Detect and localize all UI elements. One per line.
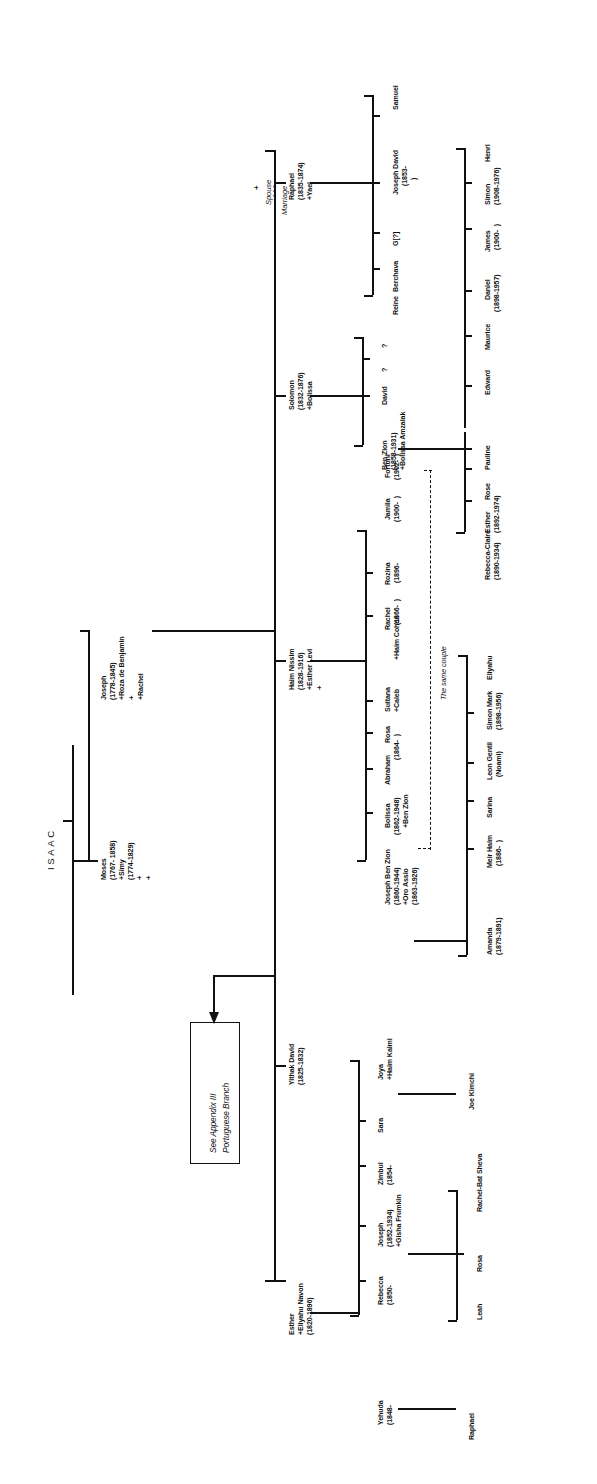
appendix-callout-line2: Portuguese Branch	[222, 1083, 230, 1153]
person-solomon-child-q1: ?	[381, 344, 389, 348]
person-jamila-dates: (1900- )	[393, 496, 401, 522]
person-amanda-dates: (1879-1891)	[495, 917, 503, 955]
stub-leon-gentil	[466, 762, 474, 764]
person-daniel: Daniel	[484, 279, 492, 300]
person-james-dates: (1900- )	[493, 224, 501, 250]
raphael-children-bar-end-bottom	[364, 295, 373, 297]
person-solomon-child-q2: ?	[381, 368, 389, 372]
person-daniel-dates: (1898-1957)	[493, 274, 501, 312]
stub-rachel	[365, 615, 373, 617]
person-abraham: Abraham	[384, 755, 392, 785]
stub-rosa	[365, 732, 373, 734]
esther-children-connector	[310, 1312, 358, 1314]
person-joseph-1852: Joseph	[377, 1223, 385, 1247]
person-bolissa: Bolissa	[384, 803, 392, 828]
person-esther-name: Esther	[288, 1314, 296, 1335]
person-joseph-ben-zion-dates: (1860-1944)	[393, 867, 401, 905]
same-couple-dashed-link	[430, 470, 431, 850]
stub-rosa-child	[456, 1253, 464, 1255]
stub-rozina	[365, 572, 373, 574]
esther-children-bar	[358, 1060, 360, 1315]
person-solomon-dates: (1832-1876)	[297, 372, 305, 410]
person-yithak-david-name: Yithak David	[288, 1044, 296, 1085]
stub-esther-1892	[464, 500, 472, 502]
stub-raphael	[274, 182, 286, 184]
same-couple-dashed-hook-top	[424, 470, 432, 471]
raphael-children-bar	[372, 95, 374, 295]
person-gq: G[?]	[392, 232, 400, 246]
stub-joseph-david	[372, 182, 380, 184]
person-maurice: Maurice	[484, 324, 492, 350]
person-yehuda: Yehuda	[377, 1400, 385, 1425]
stub-rose	[464, 468, 472, 470]
person-samuel: Samuel	[392, 85, 400, 110]
person-leah: Leah	[476, 1304, 484, 1320]
joya-children-connector	[398, 1093, 456, 1095]
solomon-children-bar-end-bottom	[354, 445, 363, 447]
person-rachel-bat-sheva: Rachel-Bat Sheva	[476, 1154, 484, 1212]
person-pauline: Pauline	[484, 445, 492, 470]
person-rebecca-dates: (1850-	[386, 1285, 394, 1305]
root-spine	[72, 745, 74, 995]
stub-daniel	[464, 290, 472, 292]
stub-sara	[358, 1120, 366, 1122]
stub-bolissa	[365, 812, 373, 814]
person-solomon-child-david: David	[381, 386, 389, 405]
person-rosa-child: Rosa	[476, 1255, 484, 1272]
ben-zion-children-bar	[464, 432, 466, 532]
solomon-children-bar	[362, 337, 364, 445]
stub-yithak-david	[274, 1065, 286, 1067]
person-joseph-david-dates-close: )	[410, 178, 418, 180]
person-esther-spouse: +Eliyahu Navon	[297, 1283, 305, 1335]
stub-sarina	[466, 800, 474, 802]
person-raphael-descendant: Raphael	[468, 1413, 476, 1440]
person-moses-extra-union-2: +	[145, 875, 153, 880]
person-meir-haim-dates: (1886- )	[495, 840, 503, 866]
joseph-1852-children-connector	[408, 1253, 456, 1255]
person-fortuni-dates: (1902- )	[393, 454, 401, 480]
raphael-children-bar-end-top	[364, 95, 373, 97]
person-eliyahu: Eliyahu	[486, 655, 494, 680]
person-solomon-name: Solomon	[288, 380, 296, 410]
person-joseph-elder-spouse-2: +Rachel	[137, 673, 145, 700]
same-couple-dashed-hook-bottom	[418, 848, 431, 849]
person-bolissa-spouse: +Ben Zion	[402, 794, 410, 828]
stub-zimbul	[358, 1165, 366, 1167]
ben-zion-children-connector	[398, 448, 464, 450]
person-edward: Edward	[484, 370, 492, 395]
person-yehuda-dates: (1848-	[386, 1405, 394, 1425]
person-raphael-dates: (1835-1874)	[297, 162, 305, 200]
person-haim-nissim-spouse: +Esther Levi	[306, 649, 314, 690]
person-sarina: Sarina	[486, 797, 494, 818]
person-rachel-spouse-dates: (1866- )	[393, 599, 401, 625]
person-rose: Rose	[484, 483, 492, 500]
esther-children-bar-end-top	[350, 1060, 359, 1062]
legend-spouse-symbol: +	[253, 185, 261, 190]
person-simon-mark-dates: (1898-1956)	[495, 692, 503, 730]
stub-maurice	[464, 335, 472, 337]
haim-nissim-children-bar	[365, 530, 367, 860]
person-rebecca: Rebecca	[377, 1277, 385, 1305]
haim-nissim-bar-end-bottom	[357, 860, 366, 862]
stub-meir-haim	[466, 848, 474, 850]
person-joseph-1852-dates: (1852-1934)	[386, 1209, 394, 1247]
person-joseph-ben-zion-name: Joseph Ben Zion	[384, 849, 392, 905]
stub-joseph-1852	[358, 1225, 366, 1227]
person-haim-nissim-extra-union: +	[316, 685, 324, 690]
ben-zion-children-bar-end	[456, 532, 465, 534]
person-moses-spouse: +Simy	[118, 859, 126, 880]
person-joseph-david: Joseph David	[392, 150, 400, 195]
person-simon-1908: Simon	[484, 184, 492, 205]
appendix-callout-box[interactable]: See Appendix III Portuguese Branch	[190, 1022, 240, 1164]
person-amanda: Amanda	[486, 928, 494, 955]
stub-pauline	[464, 448, 472, 450]
person-rebecca-claire-dates: (1890-1934)	[493, 542, 501, 580]
person-henri: Henri	[484, 144, 492, 162]
joseph-to-gen2-connector	[152, 630, 274, 632]
stub-rebecca	[358, 1280, 366, 1282]
appendix-arrow-head	[206, 1010, 222, 1024]
person-joseph-elder-name: Joseph	[100, 676, 108, 700]
stub-solomon	[274, 395, 286, 397]
joseph-ben-zion-children-connector	[414, 940, 466, 942]
person-joseph-elder-spouse-1: +Roza de Benjamin	[118, 636, 126, 700]
